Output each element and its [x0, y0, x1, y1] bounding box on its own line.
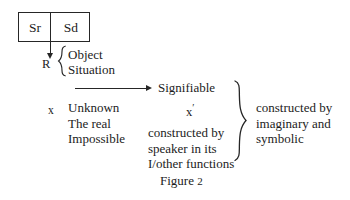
unknown-column-line: Impossible: [68, 131, 125, 147]
prime-glyph: ′: [192, 102, 194, 113]
figure-caption-label: Figure: [160, 173, 194, 188]
sign-box-cell-signifier: Sr: [19, 13, 51, 43]
unknown-column-line: Unknown: [68, 100, 125, 116]
figure-caption-number: 2: [197, 175, 203, 187]
signifiable-column-line: I/other functions: [148, 156, 234, 172]
unknown-column: Unknown The real Impossible: [68, 100, 125, 147]
outer-brace-column: constructed by imaginary and symbolic: [256, 100, 332, 147]
right-arrow-icon-shaft: [75, 88, 147, 89]
signifiable-label: Signifiable: [158, 80, 215, 95]
signifiable-marker: x′: [186, 101, 194, 119]
signifiable-column: constructed by speaker in its I/other fu…: [148, 125, 234, 172]
right-curly-brace-icon: [232, 80, 250, 162]
referent-brace-item: Situation: [68, 62, 115, 77]
signifiable-column-line: speaker in its: [148, 141, 234, 157]
left-curly-brace-icon: [57, 45, 67, 77]
sign-box-cell-signified: Sd: [51, 13, 91, 43]
unknown-column-line: The real: [68, 116, 125, 132]
outer-brace-line: symbolic: [256, 131, 332, 147]
sign-box-divider: [50, 12, 51, 42]
outer-brace-line: constructed by: [256, 100, 332, 116]
sign-box: Sr Sd: [18, 12, 90, 42]
figure-caption: Figure 2: [160, 173, 203, 189]
referent-brace-items: Object Situation: [68, 47, 115, 77]
figure-diagram: Sr Sd R Object Situation Signifiable x U…: [0, 0, 350, 200]
referent-brace-item: Object: [68, 47, 115, 62]
outer-brace-line: imaginary and: [256, 116, 332, 132]
signifiable-column-line: constructed by: [148, 125, 234, 141]
right-arrow-icon: [146, 85, 152, 91]
unknown-marker: x: [48, 103, 54, 117]
referent-label: R: [42, 58, 50, 71]
